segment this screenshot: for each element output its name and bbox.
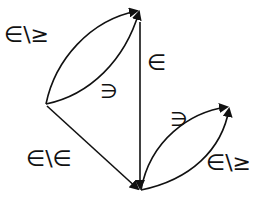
label-diagonal: ∈\∈	[26, 148, 72, 170]
label-right-lower: ∈\≥	[206, 152, 251, 174]
label-top-outer: ∈\≥	[4, 24, 49, 46]
diagram-canvas: ∈\≥ ∋ ∈ ∈\∈ ∋ ∈\≥	[0, 0, 263, 205]
label-top-inner: ∋	[100, 80, 117, 102]
label-vertical: ∈	[147, 52, 166, 74]
edge-left-top-inner	[46, 12, 139, 104]
label-right-upper: ∋	[170, 108, 187, 130]
edge-left-top-outer	[46, 11, 137, 104]
